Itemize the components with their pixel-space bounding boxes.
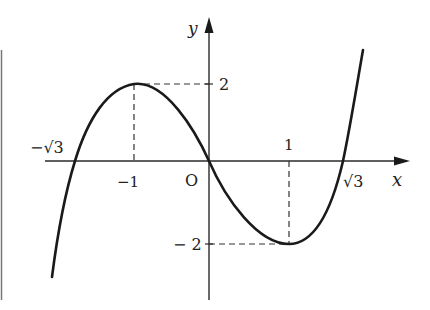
x-axis-label: x (392, 169, 402, 190)
y-axis-label: y (187, 18, 198, 38)
origin-label: O (185, 171, 198, 190)
x-tick-one: 1 (284, 136, 294, 154)
x-tick-neg-one: −1 (117, 173, 139, 191)
function-graph: y x O −√3 −1 1 √3 2 − 2 (0, 0, 430, 310)
y-tick-two: 2 (219, 75, 229, 94)
y-axis-arrow-icon (205, 17, 214, 33)
x-axis-arrow-icon (394, 157, 410, 166)
y-tick-neg-two: − 2 (173, 235, 202, 254)
x-tick-neg-sqrt3: −√3 (30, 138, 64, 157)
x-tick-sqrt3: √3 (343, 172, 363, 191)
